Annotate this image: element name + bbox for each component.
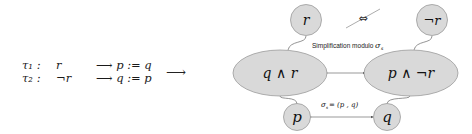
sigma-s-value: = (p , q)	[329, 101, 358, 109]
edge-notr-to-pnotr	[414, 36, 432, 50]
edge-q-to-pnotr	[387, 96, 410, 104]
sigma-subscript: s	[381, 46, 384, 51]
node-p: p	[284, 104, 311, 131]
simplification-caption: Simplification modulo	[312, 42, 374, 50]
edge-r-to-qr	[288, 36, 306, 50]
node-q: q	[374, 104, 401, 131]
node-p-and-not-r-label: p ∧ ¬r	[388, 65, 436, 81]
graph-diagram: r ¬r q ∧ r p ∧ ¬r p q ⇔ Simplification m…	[0, 0, 472, 134]
node-q-and-r-label: q ∧ r	[263, 65, 299, 81]
sigma-s-subscript: s	[326, 105, 328, 110]
node-not-r-label: ¬r	[423, 13, 441, 28]
node-r: r	[291, 5, 322, 36]
node-q-label: q	[382, 108, 392, 126]
node-q-and-r: q ∧ r	[233, 50, 327, 96]
node-not-r: ¬r	[417, 5, 448, 36]
equivalence-icon: ⇔	[358, 12, 367, 25]
node-p-and-not-r: p ∧ ¬r	[364, 50, 458, 96]
edge-p-to-qr	[280, 96, 297, 104]
node-p-label: p	[292, 108, 302, 126]
